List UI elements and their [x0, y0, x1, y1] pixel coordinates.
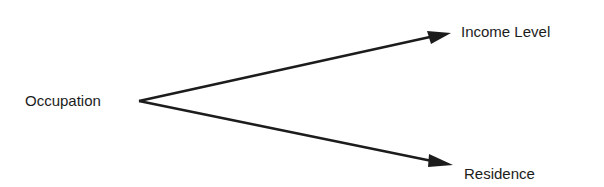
node-residence: Residence [464, 165, 535, 183]
arrow-occupation-to-income-level [139, 31, 451, 101]
arrowhead-icon [427, 31, 451, 44]
node-income-level: Income Level [461, 23, 550, 41]
node-occupation: Occupation [25, 92, 101, 110]
arrow-occupation-to-residence [139, 101, 453, 167]
arrowhead-icon [428, 154, 453, 167]
